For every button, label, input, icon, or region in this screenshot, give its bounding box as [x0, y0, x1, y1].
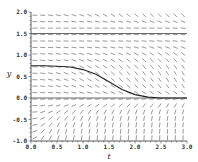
slope-segment: [48, 92, 53, 93]
slope-segment: [79, 59, 84, 61]
x-tick-label: 0.0: [26, 143, 37, 150]
slope-segment: [135, 110, 137, 115]
slope-segment: [126, 47, 131, 48]
slope-segment: [89, 122, 90, 127]
slope-segment: [166, 13, 169, 17]
slope-segment: [120, 122, 121, 127]
slope-segment: [119, 65, 123, 68]
slope-segment: [174, 84, 177, 88]
slope-segment: [127, 65, 131, 68]
slope-segment: [56, 15, 61, 16]
slope-segment: [150, 14, 154, 17]
slope-segment: [111, 104, 115, 107]
slope-segment: [32, 118, 37, 119]
slope-segment: [111, 65, 115, 68]
slope-segment: [142, 99, 147, 100]
slope-segment: [79, 21, 84, 22]
slope-segment: [95, 65, 99, 68]
slope-segment: [135, 71, 138, 75]
slope-segment: [143, 78, 146, 82]
x-tick-label: 3.0: [182, 143, 193, 150]
slope-segment: [64, 15, 69, 16]
slope-segment: [40, 79, 45, 80]
direction-field-chart: 0.00.51.01.52.02.53.02.01.51.00.50.0-0.5…: [0, 0, 198, 162]
slope-segment: [166, 59, 169, 63]
slope-segment: [158, 103, 161, 107]
slope-segment: [48, 105, 53, 106]
slope-segment: [66, 135, 67, 140]
slope-segment: [158, 53, 162, 56]
slope-segment: [48, 111, 53, 113]
slope-segment: [134, 59, 138, 62]
slope-segment: [87, 66, 91, 68]
slope-segment: [56, 92, 61, 93]
slope-segment: [143, 104, 146, 108]
slope-segment: [97, 122, 98, 127]
slope-segment: [79, 14, 84, 16]
slope-segment: [150, 91, 154, 94]
x-axis-label: t: [107, 152, 111, 161]
slope-segment: [48, 15, 53, 16]
slope-segment: [159, 116, 160, 121]
slope-segment: [181, 91, 185, 94]
slope-segment: [159, 110, 161, 115]
slope-segment: [32, 124, 37, 125]
slope-segment: [64, 72, 69, 74]
slope-segment: [111, 14, 115, 17]
slope-segment: [49, 117, 53, 120]
slope-segment: [167, 116, 168, 121]
slope-segment: [134, 21, 139, 23]
slope-segment: [136, 116, 137, 121]
slope-segment: [135, 78, 138, 82]
slope-segment: [158, 91, 162, 94]
y-tick-label: 1.5: [16, 30, 27, 37]
slope-segment: [126, 99, 131, 100]
y-tick-label: 0.5: [16, 73, 27, 80]
slope-segment: [158, 78, 161, 82]
slope-segment: [136, 122, 137, 127]
slope-segment: [72, 110, 75, 114]
axes: 0.00.51.01.52.02.53.02.01.51.00.50.0-0.5…: [13, 8, 193, 150]
slope-segment: [175, 116, 176, 121]
slope-segment: [80, 72, 84, 74]
slope-segment: [56, 79, 61, 80]
slope-segment: [95, 59, 99, 61]
slope-segment: [81, 135, 82, 140]
slope-segment: [158, 59, 162, 62]
slope-segment: [150, 71, 153, 75]
slope-segment: [95, 21, 100, 22]
slope-segment: [97, 135, 98, 140]
slope-segment: [127, 85, 131, 88]
slope-segment: [181, 13, 184, 17]
slope-segment: [118, 21, 123, 22]
y-tick-label: 1.0: [16, 51, 27, 58]
slope-segment: [48, 73, 53, 74]
slope-segment: [126, 21, 131, 22]
slope-segment: [167, 110, 168, 115]
slope-segment: [103, 85, 107, 88]
slope-segment: [142, 41, 147, 42]
slope-segment: [73, 135, 74, 140]
slope-segment: [127, 14, 131, 17]
slope-segment: [182, 65, 185, 69]
slope-segment: [64, 110, 68, 113]
y-tick-label: -1.0: [13, 137, 28, 144]
slope-segment: [113, 129, 114, 134]
slope-segment: [166, 71, 169, 75]
slope-segment: [165, 21, 170, 23]
slope-segment: [135, 65, 138, 69]
slope-segment: [127, 78, 130, 82]
slope-segment: [142, 65, 145, 69]
slope-segment: [174, 13, 177, 17]
slope-segment: [165, 99, 170, 100]
slope-segment: [157, 47, 162, 49]
slope-segment: [95, 104, 99, 107]
slope-segment: [134, 47, 139, 48]
slope-segment: [57, 129, 59, 134]
slope-segment: [111, 59, 115, 62]
slope-segment: [152, 122, 153, 127]
slope-segment: [65, 123, 67, 128]
slope-segment: [128, 116, 129, 121]
y-axis-label: y: [6, 69, 12, 78]
slope-segment: [71, 92, 76, 93]
